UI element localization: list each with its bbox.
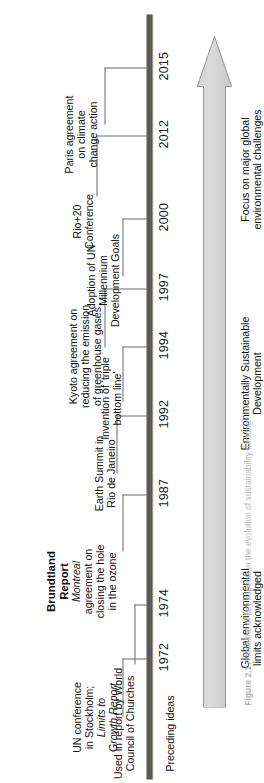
timeline-axis xyxy=(146,14,152,779)
leader-1974 xyxy=(134,604,135,664)
leader-2015 xyxy=(104,67,105,124)
event-1972-line-1: UN conference xyxy=(70,669,82,765)
year-label-1997: 1997 xyxy=(156,272,170,301)
event-1974: Used in report by World Council of Churc… xyxy=(111,663,135,783)
phase-band-3: Focus on major global environmental chal… xyxy=(238,99,262,239)
progression-arrow xyxy=(196,35,232,707)
event-1987-line-6: in the ozone xyxy=(105,540,117,622)
axis-start-label-line-1: Preceding ideas xyxy=(163,699,175,771)
figure-caption: Figure 2.1 A timeline of key aspects in … xyxy=(243,420,253,705)
figure-caption-text: A timeline of key aspects in the evoluti… xyxy=(243,420,252,663)
event-2015: Paris agreement on climate change action xyxy=(62,91,98,177)
phase-band-3-line-2: environmental challenges xyxy=(250,99,262,239)
tick-2012 xyxy=(96,135,148,136)
leader-2000 xyxy=(122,218,123,276)
event-1994-line-2: bottom line' xyxy=(110,351,122,445)
year-label-2015: 2015 xyxy=(156,51,170,80)
event-1972-line-2: in Stockholm; xyxy=(82,669,94,765)
tick-1994 xyxy=(122,346,148,347)
event-1987-line-5: closing the hole xyxy=(93,540,105,622)
event-1974-line-1: Used in report by World xyxy=(111,663,123,783)
event-1997-line-1: Kyoto agreement on xyxy=(66,301,78,411)
event-2015-line-3: change action xyxy=(86,91,98,177)
year-label-2000: 2000 xyxy=(156,202,170,231)
axis-start-label: Preceding ideas xyxy=(163,699,175,771)
event-2015-line-1: Paris agreement xyxy=(62,91,74,177)
event-1987-line-1: Brundtland xyxy=(44,540,57,622)
event-2012: Rio+20 Conference xyxy=(70,184,94,258)
tick-1974 xyxy=(134,604,148,605)
year-label-1992: 1992 xyxy=(156,399,170,428)
event-1987-line-2: Report xyxy=(57,540,70,622)
year-label-1994: 1994 xyxy=(156,330,170,359)
event-2015-line-2: on climate xyxy=(74,91,86,177)
event-1987: Brundtland Report Montreal agreement on … xyxy=(44,540,118,622)
tick-2015 xyxy=(104,67,148,68)
figure-caption-number: Figure 2.1 xyxy=(243,665,252,705)
year-label-2012: 2012 xyxy=(156,119,170,148)
event-2012-line-1: Rio+20 xyxy=(70,184,82,258)
event-2012-line-2: Conference xyxy=(82,184,94,258)
year-label-1974: 1974 xyxy=(156,588,170,617)
event-1974-line-2: Council of Churches xyxy=(123,663,135,783)
phase-band-3-line-1: Focus on major global xyxy=(238,99,250,239)
event-1987-line-4: agreement on xyxy=(81,540,93,622)
tick-2000 xyxy=(122,218,148,219)
year-label-1972: 1972 xyxy=(156,642,170,671)
year-label-1987: 1987 xyxy=(156,478,170,507)
event-1972-line-3: Limits to xyxy=(94,669,106,765)
tick-1987 xyxy=(122,494,148,495)
leader-1987 xyxy=(122,494,123,551)
event-2000-line-2: Millennium xyxy=(96,227,108,333)
event-1987-line-3: Montreal xyxy=(69,540,81,622)
event-2000-line-3: Development Goals xyxy=(108,227,120,333)
